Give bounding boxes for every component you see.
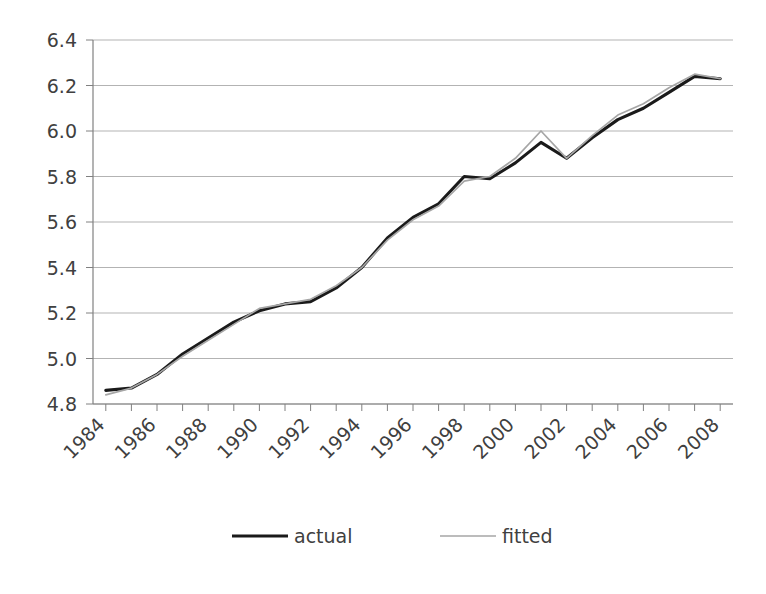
series-line-actual (106, 76, 720, 390)
y-tick-label: 5.6 (47, 211, 77, 233)
x-tick-label: 2004 (571, 413, 621, 463)
x-tick-label: 2002 (520, 413, 570, 463)
x-tick-label: 1992 (264, 413, 314, 463)
x-tick-label: 1990 (212, 413, 262, 463)
footer-caption (28, 586, 588, 594)
legend-label-actual[interactable]: actual (294, 525, 353, 547)
y-axis-tick-labels: 6.46.26.05.85.65.45.25.04.8 (47, 29, 77, 415)
x-tick-label: 1996 (366, 413, 416, 463)
x-tick-label: 1994 (315, 413, 365, 463)
y-tick-label: 6.0 (47, 120, 77, 142)
y-tick-label: 6.4 (47, 29, 77, 51)
x-axis-tick-marks (106, 404, 720, 411)
x-tick-label: 1984 (59, 413, 109, 463)
x-tick-label: 1988 (161, 413, 211, 463)
legend-label-fitted[interactable]: fitted (502, 525, 553, 547)
line-chart: 6.46.26.05.85.65.45.25.04.8 198419861988… (0, 0, 766, 594)
series-line-fitted (106, 74, 720, 395)
x-tick-label: 2000 (468, 413, 518, 463)
y-tick-label: 6.2 (47, 75, 77, 97)
x-axis-tick-labels: 1984198619881990199219941996199820002002… (59, 413, 723, 463)
y-tick-label: 5.0 (47, 348, 77, 370)
x-tick-label: 1986 (110, 413, 160, 463)
x-tick-label: 1998 (417, 413, 467, 463)
y-tick-label: 5.8 (47, 166, 77, 188)
x-tick-label: 2008 (673, 413, 723, 463)
chart-canvas: 6.46.26.05.85.65.45.25.04.8 198419861988… (0, 0, 766, 594)
y-tick-label: 5.4 (47, 257, 77, 279)
x-tick-label: 2006 (622, 413, 672, 463)
y-tick-label: 5.2 (47, 302, 77, 324)
data-series-group (106, 74, 720, 395)
y-tick-label: 4.8 (47, 393, 77, 415)
chart-legend: actualfitted (232, 525, 553, 547)
